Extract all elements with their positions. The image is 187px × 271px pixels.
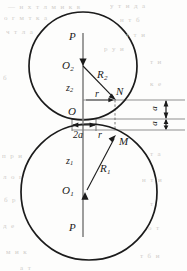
bleed-line: д е (3, 222, 16, 230)
label-z1: z1 (66, 156, 73, 167)
bleed-line: б р (4, 196, 17, 204)
label-p-top: P (69, 31, 76, 42)
bleed-line: у т и д а (110, 2, 147, 10)
bleed-line: т б и (140, 252, 161, 260)
bleed-line: б (3, 74, 8, 82)
label-r-lower: r (98, 130, 102, 140)
label-o2: O2 (62, 60, 74, 73)
arrowhead-o2 (79, 59, 86, 66)
bleed-line: л о г (3, 173, 23, 181)
label-two-a: 2a (73, 130, 83, 140)
lower-circle (21, 124, 157, 260)
bleed-line: п р и (2, 152, 24, 160)
label-gap-lower: a (150, 121, 159, 126)
bleed-line: т т и (126, 31, 146, 39)
bleed-line: т а (150, 150, 162, 158)
label-r1: R1 (100, 163, 110, 176)
bleed-line: н т б (120, 16, 141, 24)
bleed-line: р у и (104, 45, 125, 53)
bleed-line: т (150, 200, 154, 208)
bleed-line: т и (150, 58, 163, 66)
label-p-bottom: P (69, 222, 76, 233)
bleed-line: н т и (142, 176, 163, 184)
bleed-line: — н х т л м и к в (8, 3, 81, 11)
label-r2: R2 (97, 69, 107, 82)
label-r-upper: r (95, 89, 99, 99)
bleed-line: м и к (6, 248, 28, 256)
arrowhead-r1 (109, 135, 116, 142)
label-gap-upper: a (150, 106, 159, 111)
label-o: O (68, 106, 76, 117)
bleed-line: а т (20, 264, 32, 271)
arrowhead-gap-lower-bottom (164, 125, 169, 130)
label-o1: O1 (62, 185, 74, 198)
bleed-line: о т (148, 224, 161, 232)
arrowhead-gap-lower-top (164, 119, 169, 124)
label-m: M (119, 136, 128, 147)
bleed-line: ч т л а (6, 28, 34, 36)
arrowhead-gap-upper-top (164, 100, 169, 106)
label-z2: z2 (66, 83, 73, 94)
bleed-line: к е (150, 80, 162, 88)
bleed-line: о г м т к а (4, 14, 49, 22)
arrowhead-gap-upper-bottom (164, 113, 169, 119)
label-n: N (116, 86, 123, 97)
geometry-figure: — н х т л м и к в у т и д а о г м т к а … (0, 0, 187, 271)
